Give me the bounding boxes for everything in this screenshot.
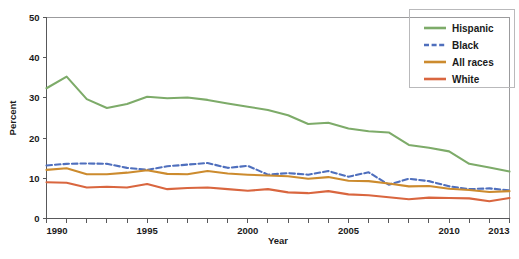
legend-label-hispanic: Hispanic [452, 23, 494, 34]
x-axis: 199019952000200520102013 Year [47, 219, 510, 247]
x-tick-label: 2000 [237, 225, 258, 236]
chart-legend: HispanicBlackAll racesWhite [410, 10, 515, 88]
y-tick-label: 20 [29, 133, 40, 144]
x-axis-title: Year [268, 235, 288, 246]
y-tick-label: 50 [29, 12, 40, 23]
x-tick-label: 2005 [338, 225, 360, 236]
x-tick-label: 1995 [137, 225, 159, 236]
line-chart-svg: 01020304050 Percent 19901995200020052010… [0, 0, 519, 259]
x-tick-label: 2013 [488, 225, 509, 236]
series-line-all-races [47, 168, 510, 192]
y-tick-label: 30 [29, 92, 40, 103]
y-axis: 01020304050 Percent [7, 12, 47, 224]
y-axis-title: Percent [7, 100, 18, 136]
legend-label-all-races: All races [452, 57, 494, 68]
legend-label-black: Black [452, 40, 479, 51]
legend-items: HispanicBlackAll racesWhite [424, 23, 494, 85]
series-line-white [47, 182, 510, 201]
x-tick-label: 1990 [47, 225, 68, 236]
data-series-group [47, 77, 510, 202]
y-tick-label: 10 [29, 173, 40, 184]
legend-label-white: White [452, 74, 480, 85]
series-line-hispanic [47, 77, 510, 172]
y-tick-label: 40 [29, 52, 40, 63]
x-axis-ticks: 199019952000200520102013 [47, 219, 510, 236]
chart-figure: 01020304050 Percent 19901995200020052010… [0, 0, 519, 259]
y-tick-label: 0 [34, 213, 39, 224]
y-axis-ticks: 01020304050 [29, 12, 47, 224]
x-tick-label: 2010 [439, 225, 460, 236]
